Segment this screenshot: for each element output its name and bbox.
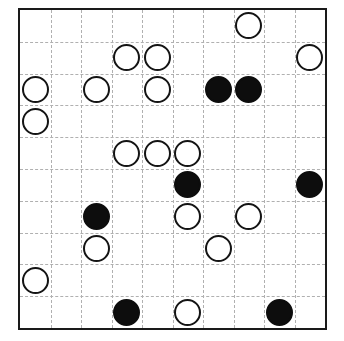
game-board[interactable] xyxy=(18,8,327,330)
stone-white-r7c2[interactable] xyxy=(83,235,110,262)
stone-white-r7c6[interactable] xyxy=(205,235,232,262)
stone-black-r5c5[interactable] xyxy=(174,171,201,198)
stone-white-r4c5[interactable] xyxy=(174,140,201,167)
stone-white-r6c7[interactable] xyxy=(235,203,262,230)
stone-white-r1c3[interactable] xyxy=(113,44,140,71)
stone-white-r9c5[interactable] xyxy=(174,299,201,326)
stone-layer xyxy=(20,10,325,328)
stone-white-r4c3[interactable] xyxy=(113,140,140,167)
stone-black-r5c9[interactable] xyxy=(296,171,323,198)
stone-white-r2c0[interactable] xyxy=(22,76,49,103)
stone-white-r6c5[interactable] xyxy=(174,203,201,230)
board-canvas xyxy=(0,0,344,341)
stone-white-r4c4[interactable] xyxy=(144,140,171,167)
stone-black-r9c8[interactable] xyxy=(266,299,293,326)
stone-black-r9c3[interactable] xyxy=(113,299,140,326)
stone-white-r2c2[interactable] xyxy=(83,76,110,103)
stone-black-r6c2[interactable] xyxy=(83,203,110,230)
stone-white-r1c9[interactable] xyxy=(296,44,323,71)
stone-white-r1c4[interactable] xyxy=(144,44,171,71)
stone-white-r3c0[interactable] xyxy=(22,108,49,135)
stone-black-r2c6[interactable] xyxy=(205,76,232,103)
stone-white-r8c0[interactable] xyxy=(22,267,49,294)
stone-white-r2c4[interactable] xyxy=(144,76,171,103)
stone-black-r2c7[interactable] xyxy=(235,76,262,103)
stone-white-r0c7[interactable] xyxy=(235,12,262,39)
